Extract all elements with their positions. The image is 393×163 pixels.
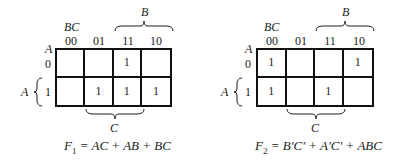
col-var-label: BC <box>264 21 279 33</box>
col-label-01: 01 <box>85 34 113 49</box>
cell-0-01 <box>85 50 113 78</box>
cell-0-00 <box>57 50 85 78</box>
cell-0-00: 1 <box>258 50 287 78</box>
col-label-11: 11 <box>114 34 142 49</box>
brace-c-label: C <box>311 122 319 134</box>
brace-a-label: A <box>221 86 228 98</box>
kmap-f2: BC 00 01 11 10 A 0 1 B A C 1 1 1 1 F2 = … <box>200 0 393 163</box>
function-f1: F1 = AC + AB + BC <box>64 138 171 156</box>
brace-b-top <box>315 20 375 32</box>
function-expression: = B′C′ + A′C′ + ABC <box>267 138 382 153</box>
brace-b-top <box>114 20 174 32</box>
brace-b-label: B <box>342 6 349 18</box>
kmap-grid: 1 1 1 1 <box>256 48 374 107</box>
brace-c-bottom <box>85 108 145 120</box>
cell-0-11: 1 <box>114 50 142 78</box>
function-name: F <box>255 138 263 153</box>
cell-1-01 <box>287 78 316 106</box>
row-label-1: 1 <box>245 86 251 98</box>
col-var-label: BC <box>64 21 79 33</box>
col-label-00: 00 <box>57 34 85 49</box>
cell-1-11: 1 <box>114 78 142 106</box>
brace-b-label: B <box>141 6 148 18</box>
row-label-0: 0 <box>45 58 51 70</box>
cell-0-01 <box>287 50 316 78</box>
brace-c-label: C <box>110 122 118 134</box>
cell-0-10: 1 <box>344 50 373 78</box>
row-var-label: A <box>245 43 252 55</box>
row-var-label: A <box>45 43 52 55</box>
col-label-01: 01 <box>287 34 315 49</box>
function-expression: = AC + AB + BC <box>76 138 170 153</box>
brace-a-label: A <box>21 86 28 98</box>
cell-1-01: 1 <box>85 78 113 106</box>
cell-0-11 <box>315 50 344 78</box>
col-label-10: 10 <box>142 34 170 49</box>
row-label-1: 1 <box>45 86 51 98</box>
cell-1-00 <box>57 78 85 106</box>
col-label-10: 10 <box>345 34 373 49</box>
col-label-00: 00 <box>258 34 286 49</box>
cell-1-00: 1 <box>258 78 287 106</box>
kmap-f1: BC 00 01 11 10 A 0 1 B A C 1 1 1 1 F1 = … <box>0 0 196 163</box>
cell-0-10 <box>142 50 170 78</box>
col-label-11: 11 <box>316 34 344 49</box>
function-f2: F2 = B′C′ + A′C′ + ABC <box>255 138 382 156</box>
brace-c-bottom <box>286 108 346 120</box>
cell-1-10: 1 <box>142 78 170 106</box>
function-name: F <box>64 138 72 153</box>
cell-1-11: 1 <box>315 78 344 106</box>
cell-1-10 <box>344 78 373 106</box>
brace-a-left <box>233 77 243 107</box>
kmap-grid: 1 1 1 1 <box>55 48 172 107</box>
row-label-0: 0 <box>245 58 251 70</box>
brace-a-left <box>33 77 43 107</box>
